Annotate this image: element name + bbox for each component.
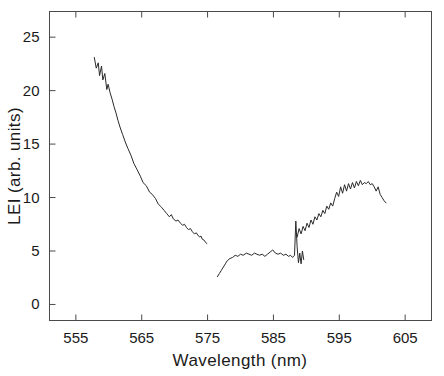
x-tick-label: 585 (261, 329, 286, 346)
y-tick-label: 5 (31, 242, 39, 259)
x-tick-label: 555 (63, 329, 88, 346)
x-tick-label: 565 (129, 329, 154, 346)
y-axis-title: LEI (arb. units) (5, 107, 24, 225)
figure-page: 0510152025 555565575585595605 Wavelength… (0, 0, 444, 376)
plot-frame (50, 12, 432, 321)
y-axis-tick-labels: 0510152025 (23, 28, 40, 312)
y-tick-label: 15 (23, 135, 40, 152)
spectrum-plot: 0510152025 555565575585595605 Wavelength… (0, 0, 444, 376)
data-curve-segment-2 (217, 221, 303, 277)
y-tick-label: 0 (31, 295, 39, 312)
y-axis-ticks (50, 37, 56, 304)
data-curve-segment-1 (94, 57, 207, 243)
y-tick-label: 25 (23, 28, 40, 45)
data-curve-segment-3 (297, 180, 386, 237)
data-curves (94, 57, 386, 276)
x-tick-label: 575 (195, 329, 220, 346)
x-tick-label: 595 (327, 329, 352, 346)
x-tick-label: 605 (393, 329, 418, 346)
x-axis-title: Wavelength (nm) (173, 351, 308, 370)
x-axis-ticks (76, 12, 405, 321)
x-axis-tick-labels: 555565575585595605 (63, 329, 417, 346)
y-tick-label: 10 (23, 189, 40, 206)
y-tick-label: 20 (23, 82, 40, 99)
